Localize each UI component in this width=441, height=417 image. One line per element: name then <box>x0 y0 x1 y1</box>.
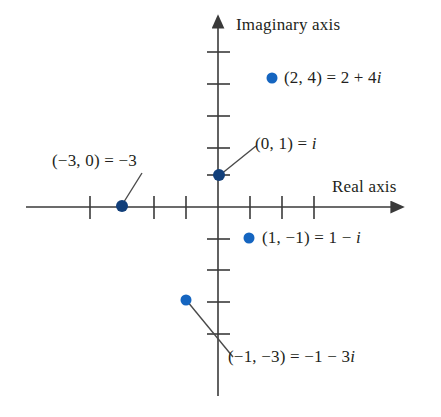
point-label-pm30: (−3, 0) = −3 <box>52 152 137 169</box>
point-label-pm30-text: (−3, 0) = −3 <box>52 151 137 170</box>
imaginary-axis-label: Imaginary axis <box>236 16 340 33</box>
point-label-p01: (0, 1) = i <box>255 135 317 152</box>
leader-line-pm1m3 <box>187 301 233 357</box>
point-label-p1m1-text: (1, −1) = 1 − <box>262 228 356 247</box>
point-label-p24-imaginary-unit: i <box>377 68 382 87</box>
point-dot-pm30[interactable] <box>116 200 128 212</box>
point-label-p01-imaginary-unit: i <box>312 134 317 153</box>
point-dot-pm1m3[interactable] <box>181 295 192 306</box>
point-label-p24: (2, 4) = 2 + 4i <box>284 69 382 86</box>
point-dot-p24[interactable] <box>267 73 278 84</box>
point-label-p24-text: (2, 4) = 2 + 4 <box>284 68 377 87</box>
complex-plane-figure: Imaginary axis Real axis (2, 4) = 2 + 4i… <box>0 0 441 417</box>
point-label-pm1m3-text: (−1, −3) = −1 − 3 <box>228 347 350 366</box>
point-label-p01-text: (0, 1) = <box>255 134 312 153</box>
point-label-p1m1: (1, −1) = 1 − i <box>262 229 361 246</box>
point-dot-p01[interactable] <box>213 169 225 181</box>
plotted-points <box>116 73 278 306</box>
axes-and-points-svg <box>0 0 441 417</box>
point-label-pm1m3: (−1, −3) = −1 − 3i <box>228 348 355 365</box>
real-axis-label: Real axis <box>332 178 397 195</box>
point-dot-p1m1[interactable] <box>244 233 255 244</box>
point-label-p1m1-imaginary-unit: i <box>356 228 361 247</box>
point-label-pm1m3-imaginary-unit: i <box>350 347 355 366</box>
leader-lines <box>122 146 256 357</box>
leader-line-pm30 <box>122 173 142 205</box>
leader-line-p01 <box>220 146 256 175</box>
